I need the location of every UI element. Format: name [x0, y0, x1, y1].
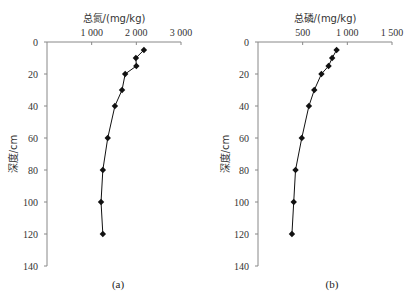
panel-b-total-phosphorus: 总磷/(mg/kg)5001 0001 50002040608010012014…: [219, 12, 403, 291]
diamond-marker: [112, 103, 118, 109]
y-tick-label: 100: [23, 197, 38, 208]
diamond-marker: [122, 71, 128, 77]
diamond-marker: [289, 231, 295, 237]
x-axis-title: 总氮/(mg/kg): [83, 12, 146, 24]
x-axis-title: 总磷/(mg/kg): [294, 12, 357, 24]
series-line: [292, 50, 337, 234]
x-tick-label: 1 000: [336, 27, 359, 38]
y-tick-label: 120: [234, 229, 249, 240]
y-tick-label: 0: [244, 37, 249, 48]
y-tick-label: 20: [239, 69, 249, 80]
x-tick-label: 1 000: [80, 27, 103, 38]
diamond-marker: [133, 63, 139, 69]
y-tick-label: 60: [28, 133, 38, 144]
y-tick-label: 60: [239, 133, 249, 144]
y-tick-label: 20: [28, 69, 38, 80]
diamond-marker: [119, 87, 125, 93]
y-tick-label: 0: [33, 37, 38, 48]
x-tick-label: 1 500: [381, 27, 404, 38]
y-axis-title: 深度/cm: [219, 135, 231, 174]
y-tick-label: 120: [23, 229, 38, 240]
series-line: [101, 50, 144, 234]
x-tick-label: 500: [295, 27, 310, 38]
panel-a-total-nitrogen: 总氮/(mg/kg)1 0002 0003 000020406080100120…: [7, 12, 192, 291]
y-tick-label: 140: [23, 261, 38, 272]
diamond-marker: [292, 167, 298, 173]
y-tick-label: 40: [239, 101, 249, 112]
chart-figure: 总氮/(mg/kg)1 0002 0003 000020406080100120…: [0, 0, 414, 304]
x-tick-label: 2 000: [125, 27, 148, 38]
y-tick-label: 80: [28, 165, 38, 176]
diamond-marker: [299, 135, 305, 141]
panel-label: (b): [326, 278, 339, 291]
y-axis-title: 深度/cm: [7, 135, 19, 174]
y-tick-label: 140: [234, 261, 249, 272]
diamond-marker: [306, 103, 312, 109]
diamond-marker: [100, 167, 106, 173]
x-tick-label: 3 000: [170, 27, 193, 38]
panel-label: (a): [112, 278, 125, 291]
diamond-marker: [105, 135, 111, 141]
diamond-marker: [100, 231, 106, 237]
diamond-marker: [333, 47, 339, 53]
diamond-marker: [311, 87, 317, 93]
diamond-marker: [291, 199, 297, 205]
diamond-marker: [329, 55, 335, 61]
y-tick-label: 100: [234, 197, 249, 208]
y-tick-label: 80: [239, 165, 249, 176]
y-tick-label: 40: [28, 101, 38, 112]
diamond-marker: [98, 199, 104, 205]
